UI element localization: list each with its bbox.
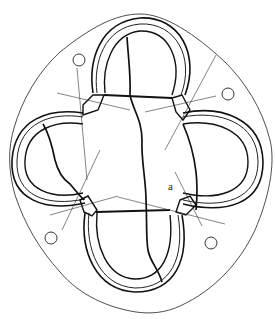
mounting-hole-top-left: [73, 54, 85, 66]
mounting-hole-bottom-left: [45, 232, 57, 244]
outer-flange-outline: [10, 14, 272, 313]
crack-vertical: [127, 37, 162, 282]
cracks: [43, 37, 197, 282]
top-lobe: [92, 18, 190, 98]
mounting-hole-top-right: [222, 88, 234, 100]
left-lobe: [12, 112, 85, 206]
mounting-hole-bottom-right: [205, 237, 217, 249]
bottom-lobe: [84, 210, 184, 292]
leader-lines: [50, 55, 225, 230]
right-lobe: [183, 111, 263, 208]
cloverleaf-part-drawing: a: [0, 0, 275, 319]
drawing-canvas: a: [0, 0, 275, 319]
crack-left: [43, 124, 84, 200]
label-a: a: [168, 180, 173, 192]
